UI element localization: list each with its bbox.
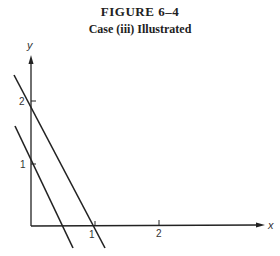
y-tick-label-2: 2	[19, 96, 25, 107]
line-intercept-1	[15, 126, 73, 248]
diagram-canvas: y x 2 1 1 2	[0, 0, 280, 256]
x-tick-label-1: 1	[89, 229, 95, 240]
x-tick-label-2: 2	[156, 228, 162, 239]
line-intercept-2	[14, 75, 105, 248]
y-tick-label-1: 1	[20, 159, 26, 170]
y-axis-arrow-icon	[29, 55, 34, 64]
x-axis-arrow-icon	[256, 223, 265, 228]
x-axis	[31, 225, 258, 226]
y-axis-label: y	[26, 39, 34, 51]
x-axis-label: x	[267, 219, 274, 231]
